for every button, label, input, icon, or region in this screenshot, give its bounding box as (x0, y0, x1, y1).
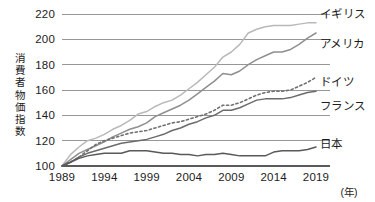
y-axis-tick-label: 140 (35, 109, 55, 121)
y-axis-title-char: 指 (15, 113, 26, 125)
x-axis-tick-label: 2009 (218, 171, 244, 183)
y-axis-tick-label: 180 (35, 59, 55, 71)
chart-canvas: 220200180160140120100 198919941999200420… (0, 0, 375, 202)
y-axis-tick-label: 160 (35, 84, 55, 96)
y-axis-tick-label: 200 (35, 33, 55, 45)
series-label-japan: 日本 (320, 137, 343, 150)
series-label-germany: ドイツ (320, 76, 354, 88)
y-axis-tick-label: 120 (35, 135, 55, 147)
y-axis-title-char: 消 (15, 52, 25, 64)
x-axis-tick-label: 1994 (91, 171, 118, 183)
series-labels-group: イギリスアメリカドイツフランス日本 (320, 8, 365, 150)
y-axis-title: 消費者物価指数 (15, 52, 26, 137)
y-axis-title-char: 数 (15, 125, 26, 137)
series-label-france: フランス (320, 100, 365, 112)
y-axis-title-char: 価 (15, 101, 25, 113)
x-axis-tick-label: 1999 (133, 171, 159, 183)
cpi-line-chart: 220200180160140120100 198919941999200420… (0, 0, 375, 202)
series-label-united-states: アメリカ (320, 38, 364, 50)
series-line-germany (62, 77, 316, 166)
x-axis-tick-label: 2014 (260, 171, 287, 183)
x-axis-unit-label: (年) (341, 186, 358, 198)
y-axis-title-char: 費 (15, 64, 25, 76)
series-label-united-kingdom: イギリス (320, 8, 365, 20)
y-axis-title-char: 者 (15, 76, 25, 88)
x-axis-tick-label: 2004 (176, 171, 203, 183)
x-axis-tick-label: 1989 (49, 171, 75, 183)
x-axis-ticks-group: 1989199419992004200920142019 (49, 171, 329, 183)
y-axis-title-char: 物 (15, 89, 25, 101)
y-axis-ticks-group: 220200180160140120100 (35, 8, 55, 172)
x-axis-tick-label: 2019 (303, 171, 329, 183)
y-axis-tick-label: 220 (35, 8, 55, 20)
series-group (62, 23, 316, 166)
